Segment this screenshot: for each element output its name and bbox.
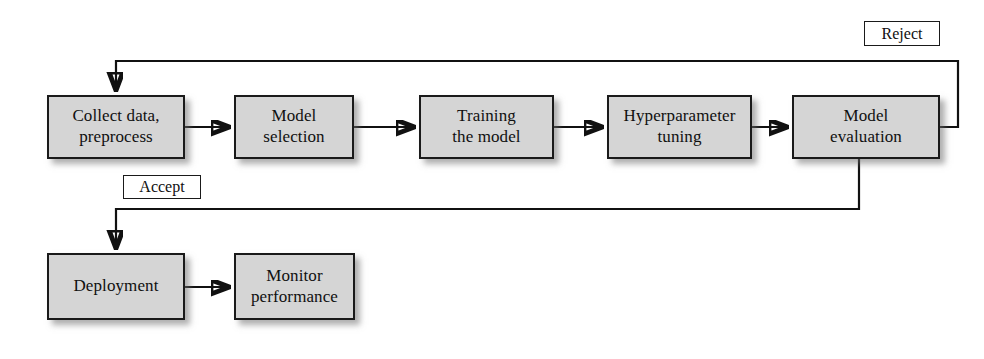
- connector-evaluation-accept-to-deployment: [116, 159, 859, 248]
- flowchart-diagram: Collect data, preprocess Model selection…: [0, 0, 984, 359]
- node-monitor-performance[interactable]: Monitor performance: [234, 253, 355, 320]
- node-label: Collect data, preprocess: [68, 106, 163, 147]
- node-training-the-model[interactable]: Training the model: [419, 95, 554, 159]
- node-label: Deployment: [69, 276, 162, 297]
- edge-label-accept: Accept: [123, 175, 201, 199]
- edge-label-reject: Reject: [864, 21, 940, 46]
- edge-label-text: Accept: [139, 179, 184, 195]
- node-model-selection[interactable]: Model selection: [234, 95, 354, 159]
- node-label: Training the model: [448, 106, 524, 147]
- edge-label-text: Reject: [882, 26, 923, 42]
- node-label: Model evaluation: [826, 106, 906, 147]
- node-deployment[interactable]: Deployment: [47, 253, 185, 320]
- node-label: Hyperparameter tuning: [620, 106, 740, 147]
- node-collect-data-preprocess[interactable]: Collect data, preprocess: [47, 95, 185, 159]
- node-model-evaluation[interactable]: Model evaluation: [792, 95, 940, 159]
- node-label: Monitor performance: [247, 266, 342, 307]
- node-label: Model selection: [259, 106, 328, 147]
- node-hyperparameter-tuning[interactable]: Hyperparameter tuning: [607, 95, 752, 159]
